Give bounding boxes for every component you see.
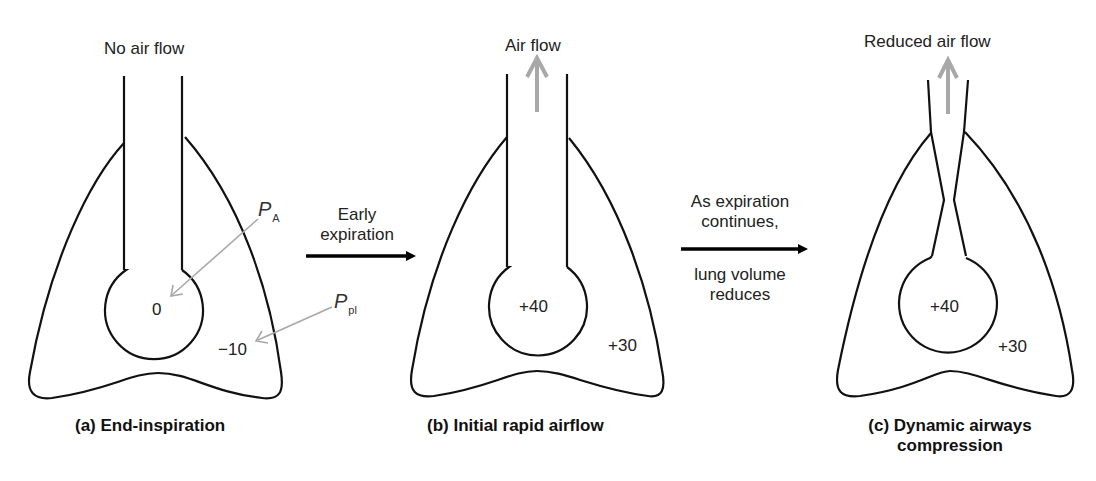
panel-b-caption: (b) Initial rapid airflow — [427, 416, 604, 436]
panel-c-lung — [837, 80, 1073, 396]
panel-a-top-label: No air flow — [104, 39, 184, 59]
ppl-annotation-label: Ppl — [334, 290, 357, 316]
panel-c-top-label: Reduced air flow — [864, 32, 991, 52]
panel-c-caption-line-1: (c) Dynamic airways — [855, 416, 1045, 436]
transition-1-line-1: Early — [307, 205, 407, 225]
panel-b-pleural-pressure: +30 — [608, 336, 637, 356]
panel-c-caption: (c) Dynamic airways compression — [855, 416, 1045, 457]
panel-a-alveolar-pressure: 0 — [152, 300, 161, 320]
airflow-arrow-c — [939, 60, 957, 114]
panel-b-top-label: Air flow — [505, 36, 561, 56]
panel-c-caption-line-2: compression — [855, 436, 1045, 456]
transition-2-above-line-2: continues, — [670, 212, 810, 232]
panel-a-caption: (a) End-inspiration — [75, 416, 225, 436]
ppl-main: P — [334, 290, 347, 312]
transition-1-label: Early expiration — [307, 205, 407, 244]
transition-2-above-line-1: As expiration — [670, 192, 810, 212]
panel-c-alveolar-pressure: +40 — [930, 297, 959, 317]
pa-annotation-label: PA — [258, 198, 280, 224]
pa-sub: A — [272, 212, 279, 224]
transition-2-below-line-1: lung volume — [670, 265, 810, 285]
ppl-sub: pl — [348, 304, 357, 316]
panel-c-pleural-pressure: +30 — [998, 337, 1027, 357]
transition-1-line-2: expiration — [307, 225, 407, 245]
transition-2-label-below: lung volume reduces — [670, 265, 810, 304]
panel-b-alveolar-pressure: +40 — [519, 297, 548, 317]
diagram-drawing — [0, 0, 1096, 481]
expiration-diagram: No air flow PA Ppl 0 −10 (a) End-inspira… — [0, 0, 1096, 481]
pa-main: P — [258, 198, 271, 220]
panel-a-pleural-pressure: −10 — [218, 340, 247, 360]
airflow-arrow-b — [527, 58, 547, 112]
transition-2-label-above: As expiration continues, — [670, 192, 810, 231]
transition-2-below-line-2: reduces — [670, 285, 810, 305]
